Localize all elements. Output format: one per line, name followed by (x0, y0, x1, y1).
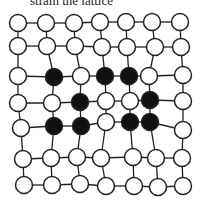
lattice-site-empty (98, 114, 115, 131)
lattice-site-empty (174, 150, 191, 167)
lattice-site-empty (92, 14, 109, 31)
lattice-site-empty (144, 14, 161, 31)
lattice-site-empty (10, 95, 27, 112)
lattice-site-empty (67, 38, 84, 55)
lattice-site-empty (38, 15, 55, 32)
lattice-site-empty (94, 39, 111, 56)
lattice-site-filled (142, 114, 159, 131)
lattice-site-empty (175, 67, 192, 84)
lattice-site-empty (118, 14, 135, 31)
lattice-site-filled (73, 118, 90, 135)
lattice-site-filled (72, 94, 89, 111)
lattice-site-empty (150, 179, 167, 196)
lattice-site-empty (119, 39, 136, 56)
lattice-site-empty (13, 120, 30, 137)
lattice-site-empty (44, 95, 61, 112)
lattice-site-empty (98, 93, 115, 110)
lattice-site-empty (126, 178, 143, 195)
lattice-site-empty (10, 15, 27, 32)
lattice-site-empty (72, 176, 89, 193)
lattice-site-empty (66, 15, 83, 32)
lattice-site-empty (93, 150, 110, 167)
lattice-site-empty (173, 39, 190, 56)
lattice-site-filled (46, 118, 63, 135)
lattice-site-empty (172, 14, 189, 31)
lattice-site-empty (147, 39, 164, 56)
lattice-site-empty (122, 93, 139, 110)
lattice-site-filled (142, 92, 159, 109)
lattice-site-empty (39, 38, 56, 55)
lattice-site-filled (121, 68, 138, 85)
lattice-site-empty (10, 38, 27, 55)
lattice-site-filled (97, 68, 114, 85)
lattice-site-empty (141, 68, 158, 85)
lattice-site-empty (98, 178, 115, 195)
lattice-site-empty (15, 151, 32, 168)
lattice-site-empty (125, 149, 142, 166)
lattice-site-empty (73, 68, 90, 85)
strained-lattice-diagram (0, 0, 200, 205)
lattice-site-filled (122, 114, 139, 131)
lattice-site-empty (175, 122, 192, 139)
lattice-site-empty (10, 68, 27, 85)
lattice-site-empty (44, 177, 61, 194)
lattice-site-empty (16, 177, 33, 194)
lattice-site-empty (175, 93, 192, 110)
lattice-site-empty (175, 178, 192, 195)
lattice-site-filled (46, 69, 63, 86)
lattice-site-empty (43, 150, 60, 167)
lattice-site-empty (69, 149, 86, 166)
lattice-site-empty (148, 150, 165, 167)
